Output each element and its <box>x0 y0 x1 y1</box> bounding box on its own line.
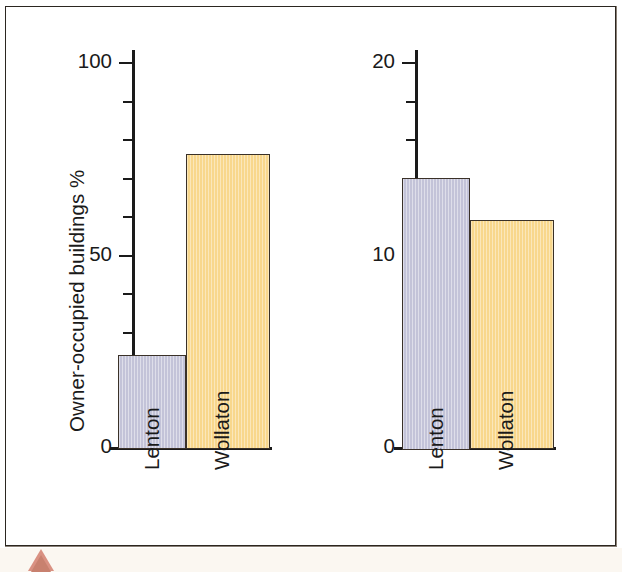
y-axis-minor-tick-left <box>123 216 132 218</box>
y-axis-tick-label-left: 0 <box>52 434 112 458</box>
y-axis-tick-label-right: 0 <box>335 434 395 458</box>
triangle-marker-inner-icon <box>31 555 51 572</box>
y-axis-tick-label-right: 20 <box>335 49 395 73</box>
y-axis-minor-tick-right <box>406 101 415 103</box>
y-axis-tick-label-left: 50 <box>52 242 112 266</box>
y-axis-minor-tick-left <box>123 293 132 295</box>
y-axis-major-tick-right <box>402 62 415 64</box>
y-axis-tick-label-right: 10 <box>335 242 395 266</box>
y-axis-minor-tick-left <box>123 139 132 141</box>
x-axis-category-label-lenton-left: Lenton <box>140 407 164 470</box>
y-axis-minor-tick-left <box>123 101 132 103</box>
y-axis-major-tick-left <box>119 62 132 64</box>
x-axis-category-label-wollaton-left: Wollaton <box>210 391 234 470</box>
paper-strip <box>0 548 622 572</box>
x-axis-category-label-lenton-right: Lenton <box>424 407 448 470</box>
y-axis-minor-tick-left <box>123 178 132 180</box>
y-axis-title-left: Owner-occupied buildings % <box>65 170 89 432</box>
figure-page: Owner-occupied buildings % Homes with no… <box>0 0 622 572</box>
y-axis-minor-tick-right <box>406 139 415 141</box>
x-axis-category-label-wollaton-right: Wollaton <box>494 391 518 470</box>
y-axis-tick-label-left: 100 <box>52 49 112 73</box>
y-axis-minor-tick-left <box>123 332 132 334</box>
y-axis-major-tick-left <box>119 255 132 257</box>
